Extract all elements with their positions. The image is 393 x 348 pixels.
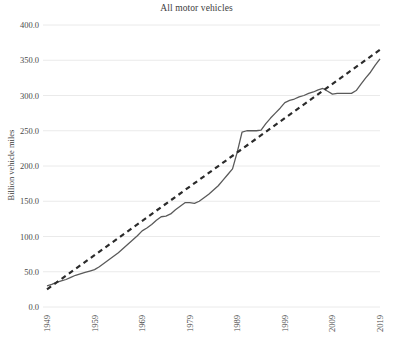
x-axis-tick-label: 1999 — [280, 315, 290, 332]
x-axis-tick-labels: 19491959196919791989199920092019 — [42, 315, 385, 332]
chart-plot: 0.050.0100.0150.0200.0250.0300.0350.0400… — [0, 0, 393, 348]
trendline-series — [47, 50, 380, 290]
chart-container: All motor vehicles Billion vehicle miles… — [0, 0, 393, 348]
y-axis-tick-label: 350.0 — [20, 55, 39, 65]
y-axis-tick-label: 100.0 — [20, 232, 39, 242]
x-axis-tick-label: 2009 — [327, 315, 337, 332]
y-axis-tick-label: 0.0 — [28, 302, 39, 312]
y-axis-tick-label: 400.0 — [20, 20, 39, 30]
x-axis-tick-label: 2019 — [375, 315, 385, 332]
y-axis-tick-label: 300.0 — [20, 91, 39, 101]
x-axis-tick-label: 1989 — [232, 315, 242, 332]
data-line-series — [47, 59, 380, 286]
y-axis-tick-labels: 0.050.0100.0150.0200.0250.0300.0350.0400… — [20, 20, 39, 312]
y-axis-tick-label: 50.0 — [24, 267, 39, 277]
y-axis-tick-label: 200.0 — [20, 161, 39, 171]
x-axis-tick-label: 1949 — [42, 315, 52, 332]
x-axis-tick-label: 1969 — [137, 315, 147, 332]
y-axis-tick-label: 250.0 — [20, 126, 39, 136]
gridlines — [43, 25, 380, 307]
x-axis-tick-label: 1959 — [90, 315, 100, 332]
x-axis-tick-label: 1979 — [185, 315, 195, 332]
y-axis-tick-label: 150.0 — [20, 196, 39, 206]
data-series — [47, 50, 380, 290]
